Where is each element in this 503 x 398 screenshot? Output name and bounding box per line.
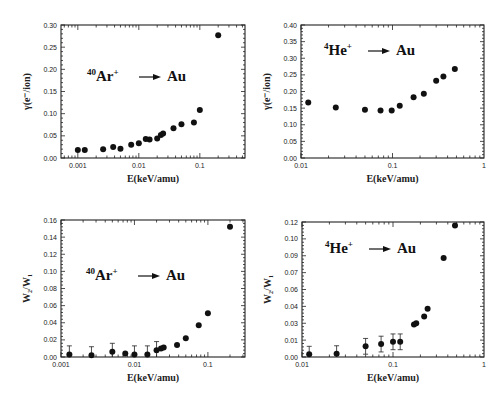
y-tick-label: 0.02 bbox=[43, 336, 57, 343]
x-axis-title: E(keV/amu) bbox=[367, 372, 419, 384]
arrow-head-icon bbox=[383, 246, 391, 252]
y-tick-label: 0.05 bbox=[283, 138, 297, 145]
y-tick-label: 0.15 bbox=[283, 105, 297, 112]
y-tick-label: 0.09 bbox=[284, 252, 298, 259]
reaction-annotation: 40Ar+ bbox=[87, 67, 119, 84]
data-point bbox=[174, 342, 180, 348]
ion-symbol: He bbox=[329, 42, 348, 58]
y-tick-label: 0.01 bbox=[284, 337, 298, 344]
data-point bbox=[122, 351, 128, 357]
ion-symbol: He bbox=[330, 240, 349, 256]
data-point bbox=[452, 66, 458, 72]
data-point bbox=[144, 351, 150, 357]
data-point bbox=[128, 142, 134, 148]
data-point bbox=[305, 99, 311, 105]
y-axis-title: W₂/W₁ bbox=[21, 274, 32, 303]
data-point bbox=[334, 351, 340, 357]
chart-he-gamma: 0.010.110.000.050.100.150.200.250.300.35… bbox=[261, 22, 486, 186]
y-tick-label: 0.04 bbox=[284, 303, 298, 310]
data-point bbox=[75, 147, 81, 153]
reaction-annotation: 4He+ bbox=[324, 41, 352, 58]
y-tick-label: 0.00 bbox=[43, 354, 57, 361]
data-point bbox=[160, 131, 166, 137]
data-point bbox=[306, 351, 312, 357]
ion-charge: + bbox=[114, 67, 119, 77]
y-tick-label: 0.00 bbox=[43, 155, 57, 162]
data-point bbox=[197, 107, 203, 113]
x-tick-label: 0.1 bbox=[388, 361, 398, 368]
y-tick-label: 0.16 bbox=[43, 217, 57, 224]
data-point bbox=[191, 120, 197, 126]
y-tick-label: 0.10 bbox=[43, 268, 57, 275]
data-point bbox=[88, 352, 94, 358]
y-tick-label: 0.08 bbox=[43, 285, 57, 292]
data-point bbox=[161, 345, 167, 351]
y-tick-label: 0.10 bbox=[43, 110, 57, 117]
x-tick-label: 0.1 bbox=[195, 162, 205, 169]
reaction-annotation: 4He+ bbox=[325, 239, 353, 256]
data-point bbox=[183, 335, 189, 341]
ion-charge: + bbox=[113, 266, 118, 276]
x-tick-label: 0.1 bbox=[388, 162, 398, 169]
data-point bbox=[397, 103, 403, 109]
x-axis-title: E(keV/amu) bbox=[366, 173, 418, 185]
data-point bbox=[389, 107, 395, 113]
chart-ar-gamma: 0.0010.010.10.000.050.100.150.200.250.30… bbox=[21, 22, 245, 186]
data-point bbox=[66, 351, 72, 357]
y-tick-label: 0.04 bbox=[43, 319, 57, 326]
y-tick-label: 0.35 bbox=[283, 38, 297, 45]
x-tick-label: 0.01 bbox=[295, 361, 309, 368]
y-tick-label: 0.12 bbox=[284, 219, 298, 226]
data-point bbox=[109, 349, 115, 355]
y-tick-label: 0.25 bbox=[283, 71, 297, 78]
y-tick-label: 0.00 bbox=[283, 155, 297, 162]
y-tick-label: 0.30 bbox=[43, 22, 57, 29]
data-point bbox=[421, 314, 427, 320]
x-axis-title: E(keV/amu) bbox=[127, 372, 179, 384]
y-tick-label: 0.20 bbox=[283, 88, 297, 95]
x-tick-label: 0.001 bbox=[52, 361, 70, 368]
x-tick-label: 0.01 bbox=[294, 162, 308, 169]
data-point bbox=[452, 222, 458, 228]
target-symbol: Au bbox=[166, 267, 185, 283]
y-axis-title: γ(e⁻/ion) bbox=[261, 73, 273, 111]
arrow-head-icon bbox=[153, 74, 161, 80]
y-axis-title: W₂/W₁ bbox=[262, 275, 273, 304]
data-point bbox=[378, 107, 384, 113]
y-tick-label: 0.12 bbox=[43, 251, 57, 258]
ion-charge: + bbox=[348, 239, 353, 249]
data-point bbox=[170, 125, 176, 131]
data-point bbox=[136, 140, 142, 146]
y-tick-label: 0.10 bbox=[284, 235, 298, 242]
y-tick-label: 0.10 bbox=[283, 121, 297, 128]
data-point bbox=[390, 339, 396, 345]
data-point bbox=[440, 74, 446, 80]
x-tick-label: 0.01 bbox=[128, 361, 142, 368]
data-point bbox=[117, 146, 123, 152]
y-tick-label: 0.14 bbox=[43, 234, 57, 241]
y-tick-label: 0.07 bbox=[284, 269, 298, 276]
data-point bbox=[421, 91, 427, 97]
x-tick-label: 0.001 bbox=[69, 162, 87, 169]
x-axis-title: E(keV/amu) bbox=[127, 173, 179, 185]
x-tick-label: 1 bbox=[482, 361, 486, 368]
ion-symbol: Ar bbox=[95, 267, 113, 283]
y-tick-label: 0.25 bbox=[43, 44, 57, 51]
data-point bbox=[147, 136, 153, 142]
data-point bbox=[378, 341, 384, 347]
arrow-head-icon bbox=[152, 273, 160, 279]
target-symbol: Au bbox=[396, 42, 415, 58]
data-point bbox=[131, 351, 137, 357]
x-tick-label: 0.01 bbox=[132, 162, 146, 169]
y-tick-label: 0.15 bbox=[43, 88, 57, 95]
data-point bbox=[100, 146, 106, 152]
data-point bbox=[110, 144, 116, 150]
arrow-head-icon bbox=[382, 48, 390, 54]
data-point bbox=[205, 310, 211, 316]
data-point bbox=[362, 107, 368, 113]
data-point bbox=[333, 104, 339, 110]
y-tick-label: 0.05 bbox=[43, 132, 57, 139]
plot-frame bbox=[61, 220, 245, 357]
y-tick-label: 0.03 bbox=[284, 320, 298, 327]
ion-symbol: Ar bbox=[96, 68, 114, 84]
